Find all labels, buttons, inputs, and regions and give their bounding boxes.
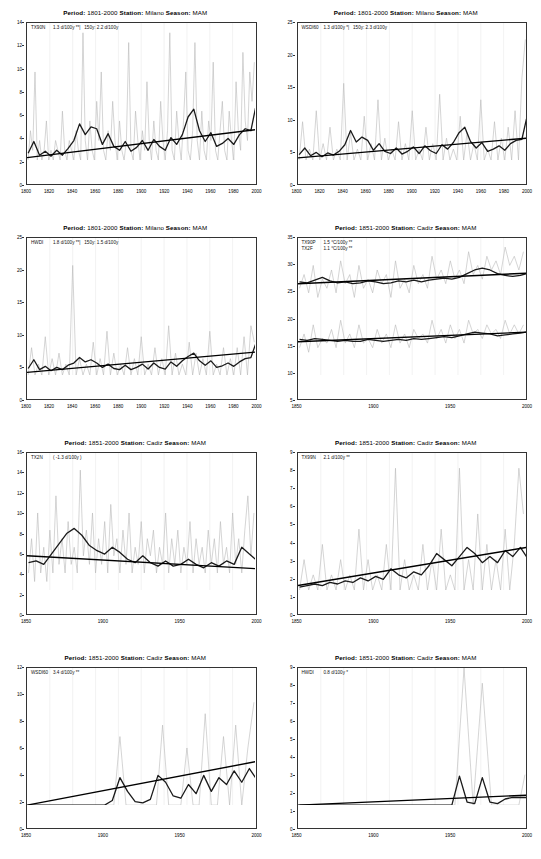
title-station-label: Station: xyxy=(391,224,415,231)
panel-title: Period: 1851-2000 Station: Cadiz Season:… xyxy=(271,224,541,231)
x-tick-label: 1920 xyxy=(159,404,169,409)
x-tick-label: 1850 xyxy=(291,404,301,409)
title-period-label: Period: xyxy=(63,224,85,231)
y-tick-mark xyxy=(293,543,295,544)
panel-title: Period: 1851-2000 Station: Cadiz Season:… xyxy=(271,654,541,661)
title-period-label: Period: xyxy=(63,9,85,16)
series-smoothed xyxy=(29,769,256,806)
y-tick-mark xyxy=(293,152,295,153)
plot-panel: Period: 1801-2000 Station: Milano Season… xyxy=(271,0,541,215)
title-period-label: Period: xyxy=(65,654,87,661)
panel-title: Period: 1851-2000 Station: Cadiz Season:… xyxy=(271,439,541,446)
gridlines xyxy=(320,453,503,590)
title-season-label: Season: xyxy=(166,9,191,16)
trend-value: 1.3 d/100y ** xyxy=(53,25,79,30)
gridlines xyxy=(320,668,503,805)
plot-svg xyxy=(298,453,526,590)
x-tick-label: 1900 xyxy=(368,833,378,838)
y-tick-mark xyxy=(293,685,295,686)
title-station-label: Station: xyxy=(120,9,144,16)
x-tick-label: 1880 xyxy=(384,189,394,194)
y-tick-mark xyxy=(293,346,295,347)
x-tick-label: 1840 xyxy=(67,404,77,409)
secondary-trend-value: 150y: 1.5 d/100y xyxy=(84,240,118,245)
y-tick-mark xyxy=(22,775,24,776)
title-period-value: 1801-2000 xyxy=(358,9,389,16)
y-tick-mark xyxy=(293,452,295,453)
x-tick-label: 1940 xyxy=(453,189,463,194)
trend-value: 0.8 d/100y * xyxy=(324,670,349,675)
title-station-value: Cadiz xyxy=(146,439,162,446)
y-tick-mark xyxy=(22,513,24,514)
y-tick-mark xyxy=(22,574,24,575)
trend-value: 2.1 d/100y ** xyxy=(324,455,350,460)
y-tick-mark xyxy=(293,793,295,794)
title-period-value: 1801-2000 xyxy=(87,224,118,231)
x-tick-label: 1860 xyxy=(90,404,100,409)
title-season-value: MAM xyxy=(462,439,477,446)
title-season-label: Season: xyxy=(166,224,191,231)
y-tick-mark xyxy=(293,400,295,401)
x-axis: 1850190019502000 xyxy=(297,404,528,416)
x-tick-label: 1900 xyxy=(368,619,378,624)
x-tick-label: 1950 xyxy=(445,619,455,624)
y-tick-mark xyxy=(293,264,295,265)
y-tick-mark xyxy=(22,595,24,596)
x-axis: 1800182018401860188019001920194019601980… xyxy=(297,189,528,201)
secondary-trend-value: 150y: 2.2 d/100y xyxy=(84,25,118,30)
x-axis: 1850190019502000 xyxy=(26,833,257,845)
y-tick-mark xyxy=(293,811,295,812)
x-tick-label: 1920 xyxy=(430,189,440,194)
y-tick-mark xyxy=(22,554,24,555)
trend-annotation: WSDI601.3 d/100y * | 150y: 2.3 d/100y xyxy=(302,25,388,31)
y-axis: 0123456789 xyxy=(271,667,295,829)
plot-panel: Period: 1851-2000 Station: Cadiz Season:… xyxy=(0,430,271,645)
x-axis: 1850190019502000 xyxy=(297,833,528,845)
trend-value: 1.5 °C/100y ** xyxy=(324,240,353,245)
index-code: TX90N xyxy=(31,25,53,31)
index-code: WSDI60 xyxy=(31,670,53,676)
title-period-value: 1851-2000 xyxy=(359,654,390,661)
y-axis: 0510152025 xyxy=(0,237,24,400)
title-period-label: Period: xyxy=(335,439,357,446)
x-tick-label: 1860 xyxy=(361,189,371,194)
y-tick-mark xyxy=(22,452,24,453)
y-tick-mark xyxy=(293,561,295,562)
title-period-value: 1801-2000 xyxy=(87,9,118,16)
y-tick-mark xyxy=(22,45,24,46)
title-station-value: Milano xyxy=(416,9,435,16)
x-tick-label: 1900 xyxy=(136,404,146,409)
y-tick-mark xyxy=(22,185,24,186)
x-tick-label: 2000 xyxy=(251,404,261,409)
plot-area: WSDI601.3 d/100y * | 150y: 2.3 d/100y xyxy=(297,22,528,185)
x-tick-label: 1980 xyxy=(228,189,238,194)
x-axis: 1850190019502000 xyxy=(26,619,257,631)
title-season-value: MAM xyxy=(462,654,477,661)
y-tick-mark xyxy=(22,367,24,368)
x-tick-label: 1940 xyxy=(182,189,192,194)
y-tick-mark xyxy=(22,802,24,803)
y-tick-mark xyxy=(22,237,24,238)
trend-annotation: TX90P1.5 °C/100y **TX2F1.1 °C/100y ** xyxy=(302,240,353,252)
title-station-value: Milano xyxy=(145,9,164,16)
title-station-value: Cadiz xyxy=(146,654,162,661)
title-station-value: Cadiz xyxy=(417,439,433,446)
x-axis: 1800182018401860188019001920194019601980… xyxy=(26,404,257,416)
trend-annotation: TX2N( -1.3 d/100y ) xyxy=(31,455,82,461)
y-tick-mark xyxy=(293,319,295,320)
index-code: TX2N xyxy=(31,455,53,461)
x-tick-label: 2000 xyxy=(251,833,261,838)
title-station-label: Station: xyxy=(391,439,415,446)
y-tick-mark xyxy=(293,775,295,776)
plot-panel: Period: 1851-2000 Station: Cadiz Season:… xyxy=(0,645,271,859)
annotation-row: HWDI1.8 d/100y ** | 150y: 1.5 d/100y xyxy=(31,240,118,246)
plot-area: HWDI0.8 d/100y * xyxy=(297,667,528,829)
x-tick-label: 1950 xyxy=(445,404,455,409)
y-tick-mark xyxy=(293,597,295,598)
y-tick-mark xyxy=(22,162,24,163)
x-tick-label: 1900 xyxy=(98,619,108,624)
y-tick-mark xyxy=(22,69,24,70)
title-period-value: 1851-2000 xyxy=(88,654,119,661)
index-code: TX99N xyxy=(302,455,324,461)
x-tick-label: 1960 xyxy=(205,189,215,194)
